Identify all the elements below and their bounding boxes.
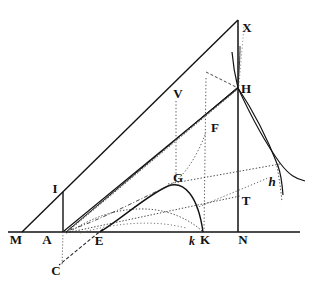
labels-group: M A E k K N C I G V F X H T h <box>10 20 276 278</box>
label-K: K <box>200 232 211 247</box>
ordinate-A-I-group <box>62 192 63 266</box>
label-I: I <box>52 181 57 196</box>
vertical-F-k-ordinate <box>204 78 206 231</box>
label-E: E <box>95 233 104 248</box>
label-F: F <box>211 120 219 135</box>
label-X: X <box>242 20 252 35</box>
vertical-A-C-dotted <box>62 232 63 266</box>
label-C: C <box>51 263 60 278</box>
chord-T-to-h-lower <box>196 178 268 208</box>
chord-G-to-h <box>168 164 280 184</box>
label-k: k <box>189 234 195 248</box>
label-h: h <box>268 174 275 189</box>
label-H: H <box>241 81 251 96</box>
ray-E-to-T <box>66 196 240 233</box>
ray-bundle-group <box>64 87 240 233</box>
curve-H-inner-descend <box>238 88 305 181</box>
label-V: V <box>173 86 183 101</box>
incoming-ray-group <box>206 72 238 88</box>
ray-E-to-H <box>66 89 238 233</box>
figure-container: M A E k K N C I G V F X H T h <box>0 0 315 293</box>
label-N: N <box>238 232 248 247</box>
label-M: M <box>10 232 22 247</box>
label-A: A <box>42 232 52 247</box>
ray-upper-left-to-H <box>206 72 238 88</box>
label-G: G <box>173 170 183 185</box>
chord-G-h-group <box>168 164 280 208</box>
geometric-diagram: M A E k K N C I G V F X H T h <box>0 0 315 293</box>
curve-X-down-to-H <box>232 52 238 88</box>
label-T: T <box>242 193 251 208</box>
curve-H-outer-descend <box>238 88 283 195</box>
curve-low-group <box>70 209 203 233</box>
